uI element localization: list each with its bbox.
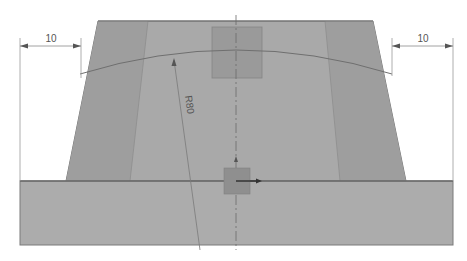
left-dimension-label[interactable]: 10 <box>45 33 57 44</box>
top-square[interactable] <box>212 27 262 78</box>
right-dimension-label[interactable]: 10 <box>417 33 429 44</box>
cad-drawing-canvas[interactable]: R80 10 10 <box>0 0 467 261</box>
